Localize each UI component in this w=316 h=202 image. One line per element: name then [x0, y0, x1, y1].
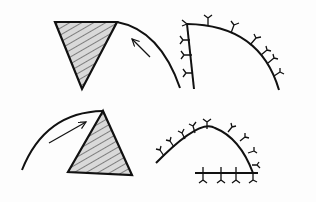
panel-top-left: [55, 22, 180, 89]
panel-bottom-right: [156, 119, 260, 183]
diagram-svg: [0, 0, 316, 202]
panel-top-right: [180, 15, 284, 90]
arched-curve: [156, 126, 253, 173]
y-tick-marks-horizontal: [199, 167, 257, 183]
vertical-stroke: [187, 24, 194, 89]
hatched-triangle: [68, 111, 132, 175]
curved-arc: [187, 24, 279, 90]
hatched-triangle: [55, 22, 117, 89]
y-tick-marks-arc: [204, 15, 284, 76]
panel-bottom-left: [22, 111, 132, 175]
diagram-canvas: [0, 0, 316, 202]
arrow-icon: [132, 39, 150, 57]
